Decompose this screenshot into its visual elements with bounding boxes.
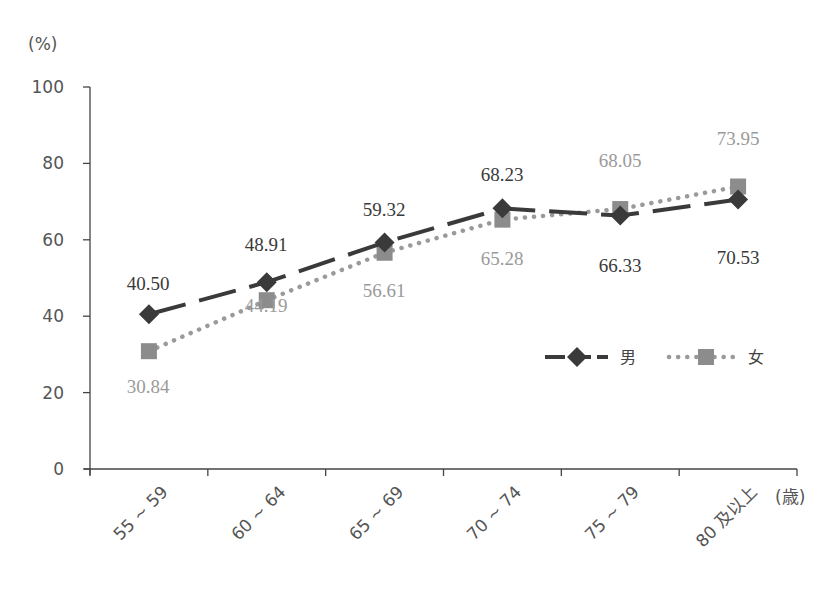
- x-tick-label: 75 ~ 79: [581, 482, 643, 544]
- data-label-female: 73.95: [717, 128, 760, 149]
- legend-label-male: 男: [620, 348, 636, 367]
- data-label-female: 65.28: [481, 248, 524, 269]
- y-axis: 020406080100: [32, 77, 90, 479]
- y-tick-label: 20: [42, 383, 64, 403]
- x-tick-label: 65 ~ 69: [345, 482, 407, 544]
- data-label-male: 48.91: [245, 234, 288, 255]
- data-label-female: 56.61: [363, 280, 406, 301]
- legend-item-female: 女: [669, 348, 764, 367]
- y-tick-label: 40: [42, 306, 64, 326]
- data-label-male: 68.23: [481, 164, 524, 185]
- plot-area: [139, 179, 748, 360]
- square-marker-icon: [698, 349, 714, 365]
- series-line-female: [149, 187, 738, 352]
- x-tick-label: 80 及以上: [692, 482, 761, 551]
- data-label-male: 40.50: [127, 273, 170, 294]
- data-label-female: 68.05: [599, 150, 642, 171]
- x-tick-label: 60 ~ 64: [227, 482, 289, 544]
- data-label-male: 66.33: [599, 255, 642, 276]
- series-line-male: [149, 200, 738, 315]
- y-axis-unit-label: (%): [28, 34, 57, 54]
- data-label-male: 70.53: [717, 247, 760, 268]
- square-marker-icon: [141, 343, 157, 359]
- data-label-female: 44.19: [245, 295, 288, 316]
- data-label-male: 59.32: [363, 199, 406, 220]
- x-tick-label: 70 ~ 74: [463, 482, 525, 544]
- y-tick-label: 60: [42, 230, 64, 250]
- y-tick-label: 100: [32, 77, 64, 97]
- legend-item-male: 男: [545, 347, 636, 367]
- diamond-marker-icon: [567, 347, 587, 367]
- line-chart: (%) 020406080100 55 ~ 5960 ~ 6465 ~ 6970…: [0, 0, 834, 595]
- legend: 男 女: [545, 347, 764, 367]
- diamond-marker-icon: [139, 304, 159, 324]
- legend-label-female: 女: [748, 348, 764, 367]
- x-axis: 55 ~ 5960 ~ 6465 ~ 6970 ~ 7475 ~ 7980 及以…: [84, 469, 797, 551]
- data-label-female: 30.84: [127, 376, 170, 397]
- y-tick-label: 80: [42, 153, 64, 173]
- data-labels: 40.5048.9159.3268.2366.3370.5330.8444.19…: [127, 128, 760, 397]
- y-tick-label: 0: [53, 459, 64, 479]
- x-tick-label: 55 ~ 59: [109, 482, 171, 544]
- x-axis-unit-label: (歳): [775, 487, 805, 507]
- diamond-marker-icon: [257, 272, 277, 292]
